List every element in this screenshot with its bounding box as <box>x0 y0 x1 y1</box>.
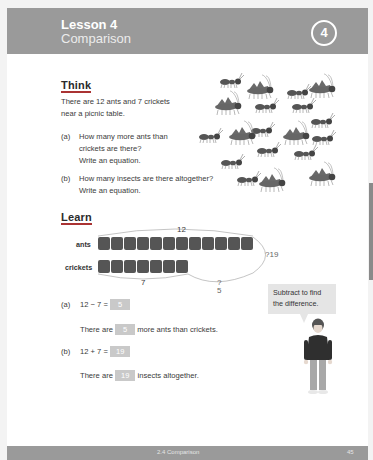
student-character <box>0 0 373 460</box>
page-edge-tab <box>369 183 373 280</box>
footer-page-number: 45 <box>347 449 354 455</box>
footer-section: 2.4 Comparison <box>157 449 199 455</box>
